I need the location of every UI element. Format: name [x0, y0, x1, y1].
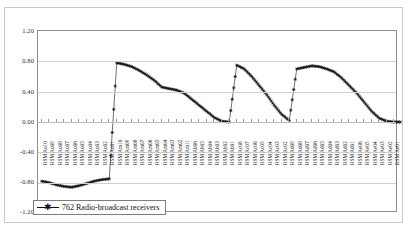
x-axis-tick: [161, 119, 162, 122]
x-axis-tick-label: RSM Ac07: [245, 141, 251, 165]
x-axis-tick-label: RSM Ac02: [283, 141, 289, 165]
x-axis-tick-label: RSM Am09: [125, 140, 131, 165]
x-axis-tick: [341, 119, 342, 122]
x-axis-tick-label: RSM Ao05: [80, 141, 86, 165]
x-axis-tick: [183, 119, 184, 122]
x-axis-tick: [198, 119, 199, 122]
legend-label: 762 Radio-broadcast receivers: [62, 202, 159, 213]
y-axis-tick-label: 0.40: [22, 88, 34, 95]
x-axis-tick: [311, 119, 312, 122]
x-axis-tick-label: RSM Ac05: [260, 141, 266, 165]
x-axis-tick: [378, 119, 379, 122]
x-axis-tick-label: RSM Am07: [140, 140, 146, 165]
x-axis-tick: [333, 119, 334, 122]
x-axis-tick-label: RSM Ad05: [320, 141, 326, 165]
x-axis-tick: [56, 119, 57, 122]
y-axis-tick-label: -0.40: [20, 148, 34, 155]
x-axis-tick: [386, 119, 387, 122]
x-axis-tick: [266, 119, 267, 122]
x-axis-tick-label: RSM Ad02: [343, 141, 349, 165]
x-axis-tick-label: RSM Ad04: [328, 141, 334, 165]
x-axis-tick-label: RSM Ac08: [238, 141, 244, 165]
x-axis-tick-label: RSM Ae01: [395, 141, 401, 165]
x-axis-tick-label: RSM Ae03: [380, 141, 386, 165]
x-axis-tick-label: RSM Ad07: [305, 141, 311, 165]
x-axis-tick: [356, 119, 357, 122]
x-axis-tick: [258, 119, 259, 122]
x-axis-tick-label: RSM Ac03: [275, 141, 281, 165]
x-axis-tick-label: RSM Ac04: [268, 141, 274, 165]
x-axis-tick-label: RSM Am03: [170, 140, 176, 165]
x-axis-tick-label: RSM Ab03: [215, 141, 221, 165]
x-axis-tick: [116, 119, 117, 122]
x-axis-tick: [168, 119, 169, 122]
x-axis-tick-label: RSM Ao10: [43, 141, 49, 165]
x-axis-tick: [191, 119, 192, 122]
y-axis-tick-label: 1.20: [22, 27, 34, 34]
x-axis-tick: [393, 119, 394, 122]
x-axis-tick-label: RSM Ae05: [365, 141, 371, 165]
x-axis-tick: [176, 119, 177, 122]
x-axis-tick: [371, 119, 372, 122]
gridline: [38, 92, 396, 93]
x-axis-tick: [86, 119, 87, 122]
x-axis-tick: [108, 119, 109, 122]
x-axis-tick-label: RSM Ad01: [350, 141, 356, 165]
y-axis-tick-label: 0.00: [22, 118, 34, 125]
x-axis-tick-label: RSM Ad06: [313, 141, 319, 165]
x-axis-tick: [348, 119, 349, 122]
x-axis-tick: [251, 119, 252, 122]
x-axis-tick: [213, 119, 214, 122]
x-axis-tick: [318, 119, 319, 122]
x-axis-tick-label: RSM Ad09: [290, 141, 296, 165]
x-axis-tick-label: RSM Am06: [148, 140, 154, 165]
x-axis-tick-label: RSM Am05: [155, 140, 161, 165]
legend-line-swatch: ✱: [37, 204, 59, 212]
x-axis-tick: [221, 119, 222, 122]
x-axis-tick: [138, 119, 139, 122]
x-axis-tick-label: RSM Ad03: [335, 141, 341, 165]
x-axis-tick-label: RSM Ao04: [88, 141, 94, 165]
x-axis-tick: [288, 119, 289, 122]
x-axis-tick: [206, 119, 207, 122]
x-axis-tick-label: RSM Ab05: [200, 141, 206, 165]
gridline: [38, 61, 396, 62]
x-axis-tick-label: RSM Ao01: [110, 141, 116, 165]
x-axis-tick-label: RSM Ao02: [103, 141, 109, 165]
x-axis-tick: [303, 119, 304, 122]
x-axis-tick: [78, 119, 79, 122]
chart-frame: 1.200.800.400.00-0.40-0.80-1.20 RSM Ao10…: [4, 7, 403, 223]
x-axis-tick-label: RSM Ae02: [388, 141, 394, 165]
x-axis-tick-label: RSM Am02: [178, 140, 184, 165]
x-axis-tick-label: RSM Ad08: [298, 141, 304, 165]
y-axis-tick-label: 0.80: [22, 57, 34, 64]
chart-legend: ✱ 762 Radio-broadcast receivers: [33, 200, 166, 215]
x-axis-tick-label: RSM Am10: [118, 140, 124, 165]
x-axis-tick: [93, 119, 94, 122]
x-axis-tick-label: RSM Ab01: [230, 141, 236, 165]
x-axis-tick-label: RSM Ae04: [373, 141, 379, 165]
x-axis-tick: [326, 119, 327, 122]
y-axis-tick-label: -1.20: [20, 208, 34, 215]
x-axis-tick: [41, 119, 42, 122]
x-axis-tick: [273, 119, 274, 122]
x-axis-tick-label: RSM Ao03: [95, 141, 101, 165]
y-axis: 1.200.800.400.00-0.40-0.80-1.20: [5, 8, 37, 224]
x-axis-tick: [363, 119, 364, 122]
x-axis-tick-label: RSM Am08: [133, 140, 139, 165]
x-axis-tick: [48, 119, 49, 122]
star-marker-icon: ✱: [44, 203, 52, 212]
x-axis-tick-label: RSM Ac06: [253, 141, 259, 165]
x-axis-tick-label: RSM Am11: [185, 140, 191, 165]
x-axis-tick-label: RSM Ao08: [58, 141, 64, 165]
x-axis-tick: [63, 119, 64, 122]
x-axis-tick-label: RSM Ab06: [193, 141, 199, 165]
x-axis-tick: [228, 119, 229, 122]
x-axis-tick: [243, 119, 244, 122]
x-axis-tick: [131, 119, 132, 122]
x-axis-tick-label: RSM Am04: [163, 140, 169, 165]
x-axis-tick: [146, 119, 147, 122]
x-axis-tick-label: RSM Ao09: [50, 141, 56, 165]
x-axis-tick: [101, 119, 102, 122]
x-axis-tick: [153, 119, 154, 122]
